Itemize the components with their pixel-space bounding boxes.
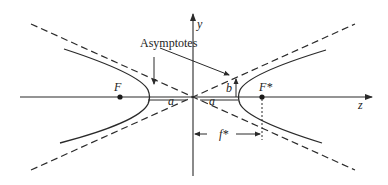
semi-major-left-label: a: [168, 94, 174, 108]
asymptotes-label: Asymptotes: [140, 36, 198, 50]
focus-left-point: [117, 94, 122, 99]
y-axis-label: y: [196, 17, 203, 31]
semi-major-right-label: a: [209, 94, 215, 108]
z-axis-label: z: [357, 98, 363, 112]
semi-minor-label: b: [226, 81, 232, 95]
focus-right-point: [259, 94, 264, 99]
hyperbola-branch-left: [60, 49, 150, 143]
focal-distance-label: f*: [219, 127, 228, 141]
asymptotes-pointer-right: [160, 48, 229, 75]
hyperbola-diagram: Asymptotes y z F F* a a b f*: [0, 0, 388, 185]
focus-right-label: F*: [258, 80, 272, 94]
focus-left-label: F: [113, 80, 122, 94]
